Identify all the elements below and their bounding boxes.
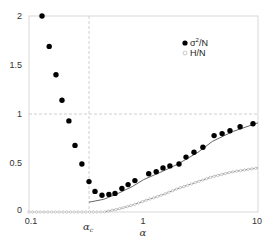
alpha-c-label: αc (83, 221, 94, 233)
data-point-filled (154, 169, 159, 174)
data-point-open (54, 211, 56, 213)
data-point-filled (125, 182, 130, 187)
data-point-open (179, 187, 181, 189)
data-point-open (232, 171, 234, 173)
data-point-filled (59, 98, 64, 103)
data-point-open (115, 208, 117, 210)
data-point-open (69, 211, 71, 213)
data-point-filled (132, 178, 137, 183)
data-point-filled (211, 133, 216, 138)
legend-open-marker (183, 51, 187, 55)
legend: σ2/N H/N (182, 37, 208, 58)
data-point-open (66, 211, 68, 213)
data-point-open (190, 183, 192, 185)
data-point-open (175, 188, 177, 190)
data-point-open (164, 193, 166, 195)
data-point-open (62, 211, 64, 213)
data-point-filled (219, 131, 224, 136)
data-point-open (103, 211, 105, 213)
data-point-filled (146, 171, 151, 176)
data-point-open (119, 207, 121, 209)
data-point-filled (53, 72, 58, 77)
data-point-open (217, 174, 219, 176)
data-point-open (221, 173, 223, 175)
y-axis: 2 1.5 1 0.5 0 (9, 11, 22, 215)
data-point-open (187, 184, 189, 186)
data-point-open (236, 170, 238, 172)
data-point-filled (106, 192, 111, 197)
data-point-filled (227, 128, 232, 133)
y-tick-label: 0 (17, 205, 22, 215)
y-tick-label: 2 (17, 11, 22, 21)
curves (89, 123, 258, 212)
markers (28, 13, 257, 213)
x-axis: 0.1 1 10 α αc (25, 216, 262, 238)
data-point-filled (119, 186, 124, 191)
data-point-filled (47, 44, 52, 49)
data-point-open (39, 211, 41, 213)
data-point-open (156, 195, 158, 197)
data-point-open (251, 168, 253, 170)
data-point-open (205, 178, 207, 180)
data-point-open (145, 199, 147, 201)
x-axis-label: α (140, 227, 147, 238)
data-point-open (134, 203, 136, 205)
data-point-open (32, 211, 34, 213)
data-point-filled (92, 189, 97, 194)
data-point-open (198, 180, 200, 182)
data-point-filled (39, 13, 44, 18)
data-point-filled (167, 163, 172, 168)
legend-filled-marker (182, 40, 187, 45)
data-point-open (85, 211, 87, 213)
data-point-open (130, 204, 132, 206)
data-point-filled (112, 191, 117, 196)
data-point-filled (72, 143, 77, 148)
data-point-open (202, 179, 204, 181)
data-point-open (247, 168, 249, 170)
data-point-open (92, 211, 94, 213)
data-point-open (126, 205, 128, 207)
data-point-open (209, 176, 211, 178)
data-point-open (111, 209, 113, 211)
data-point-filled (176, 161, 181, 166)
data-point-open (243, 169, 245, 171)
data-point-open (122, 206, 124, 208)
data-point-open (88, 211, 90, 213)
legend-sigma-label: σ2/N (190, 37, 208, 48)
data-point-filled (160, 165, 165, 170)
chart: 2 1.5 1 0.5 0 0.1 1 10 α αc σ2/N H/N (0, 0, 274, 241)
data-point-filled (200, 145, 205, 150)
y-tick-label: 1 (17, 109, 22, 119)
data-point-filled (66, 118, 71, 123)
y-tick-label: 1.5 (9, 60, 22, 70)
plot-frame (29, 16, 258, 212)
data-point-open (35, 211, 37, 213)
data-point-open (107, 210, 109, 212)
data-point-filled (250, 121, 255, 126)
data-point-open (73, 211, 75, 213)
data-point-open (224, 172, 226, 174)
data-point-open (43, 211, 45, 213)
data-point-open (149, 198, 151, 200)
data-point-open (141, 200, 143, 202)
data-point-open (183, 185, 185, 187)
data-point-open (58, 211, 60, 213)
data-point-open (81, 211, 83, 213)
data-point-filled (191, 150, 196, 155)
data-point-open (160, 194, 162, 196)
data-point-open (194, 181, 196, 183)
data-point-open (47, 211, 49, 213)
y-tick-label: 0.5 (9, 158, 22, 168)
data-point-open (228, 171, 230, 173)
data-point-filled (99, 193, 104, 198)
x-tick-label: 10 (252, 216, 262, 226)
data-point-open (255, 167, 257, 169)
data-point-open (77, 211, 79, 213)
data-point-open (239, 169, 241, 171)
legend-h-label: H/N (190, 48, 206, 58)
data-point-filled (86, 179, 91, 184)
data-point-open (51, 211, 53, 213)
data-point-filled (183, 154, 188, 159)
data-point-open (137, 202, 139, 204)
x-tick-label: 1 (140, 216, 145, 226)
